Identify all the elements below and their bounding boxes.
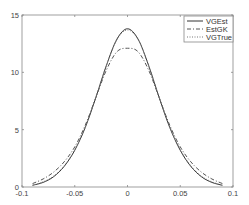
legend: VGEst EstGK VGTrue [184,16,233,42]
legend-label-vgtrue: VGTrue [206,33,232,42]
x-tick-label: 0.05 [173,189,188,198]
x-tick-label: 0.1 [228,189,238,198]
y-tick-label: 10 [11,68,19,77]
x-tick-label: 0 [125,189,129,198]
chart: -0.1-0.0500.050.1051015 VGEst EstGK VGTr… [0,0,249,205]
y-tick-label: 5 [15,126,19,135]
x-tick-label: -0.05 [66,189,83,198]
y-tick-label: 0 [15,183,19,192]
y-tick-label: 15 [11,11,19,20]
